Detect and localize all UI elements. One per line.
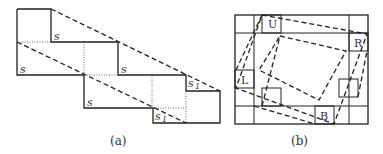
label-s: s [87, 96, 93, 109]
dashed-line [254, 106, 315, 124]
panel-a-staircase [17, 9, 220, 123]
dashed-line [262, 36, 280, 106]
dashed-line [358, 51, 367, 97]
label-s1-subscript: 1 [195, 82, 200, 91]
staircase-outline [17, 9, 220, 123]
label-s: s [54, 30, 60, 43]
label-s1: s [155, 110, 161, 123]
label-l: L [241, 74, 249, 87]
label-s: s [20, 63, 26, 76]
figure: s s s s s 1 s 1 (a) U R L B (b) [0, 0, 383, 154]
label-s: s [121, 63, 127, 76]
dashed-inner-quad [259, 36, 346, 100]
label-r: R [354, 37, 363, 50]
dashed-outer-quad [236, 15, 367, 124]
label-s1-subscript: 1 [162, 115, 167, 124]
label-s1: s [188, 77, 194, 90]
caption-b: (b) [291, 134, 308, 148]
dashed-line [236, 15, 262, 70]
dashed-diagonal [51, 9, 220, 91]
caption-a: (a) [110, 134, 127, 148]
label-b: B [320, 110, 328, 123]
label-u: U [268, 18, 277, 31]
panel-b-grid [235, 15, 368, 124]
